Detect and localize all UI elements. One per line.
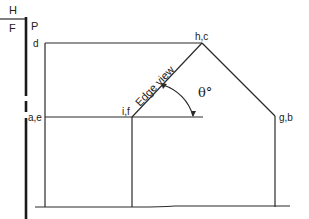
- angle-arc: [163, 85, 193, 116]
- label-gb: g,b: [279, 112, 293, 123]
- edge-view-label: Edge view: [133, 63, 177, 108]
- label-ae: a,e: [28, 112, 42, 123]
- label-f: F: [9, 22, 16, 34]
- arrowhead-lower-icon: [191, 111, 196, 117]
- angle-theta-label: θ°: [198, 85, 212, 100]
- ground-line: [35, 206, 290, 207]
- label-d: d: [33, 38, 39, 49]
- orthographic-projection-diagram: H F P d h,c a,e i,f g,b Edge view θ°: [0, 0, 309, 219]
- label-if: i,f: [122, 106, 130, 117]
- roof-right-slope: [202, 43, 275, 116]
- label-hc: h,c: [195, 31, 208, 42]
- label-h: H: [9, 4, 17, 16]
- label-p: P: [31, 20, 38, 32]
